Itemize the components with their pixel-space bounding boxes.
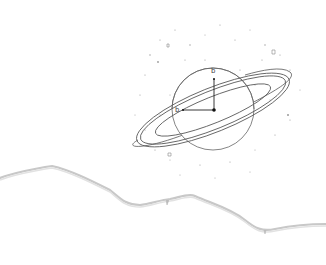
planet-illustration: b b	[0, 0, 326, 265]
torn-paper-edge	[0, 166, 326, 234]
vertical-axis-label: b	[211, 67, 216, 75]
horizontal-axis-label: b	[175, 106, 180, 114]
